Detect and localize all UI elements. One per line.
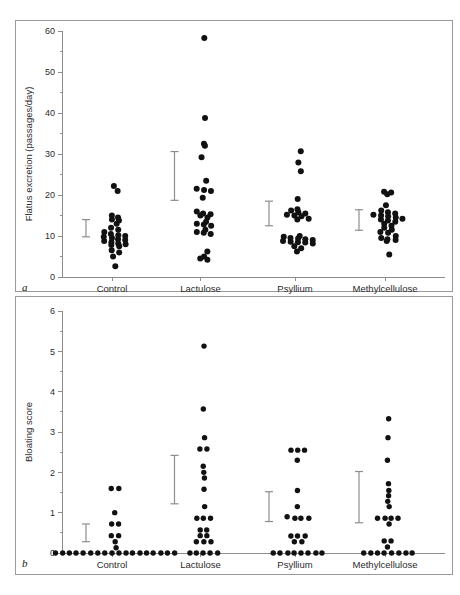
data-point [60,550,65,555]
data-point [201,539,206,544]
data-point [386,416,391,421]
data-point [292,539,297,544]
data-point [295,533,300,538]
data-point [204,446,209,451]
data-point [144,550,149,555]
data-point [388,516,393,521]
data-point [109,521,114,526]
data-point [298,516,303,521]
data-point [102,550,107,555]
data-point [305,550,310,555]
data-point [116,521,121,526]
data-point [187,550,192,555]
figure-container: 0102030405060Flatus excretion (passages/… [0,0,460,595]
data-point [197,533,202,538]
data-point [295,488,300,493]
data-point [194,550,199,555]
data-point [395,516,400,521]
data-point [116,533,121,538]
data-point [285,550,290,555]
data-point [403,550,408,555]
data-point [201,487,206,492]
panel-b-plot: 0123456Bloating scoreControlLactulosePsy… [0,0,460,595]
x-category-label: Psyllium [277,559,312,570]
data-point [313,550,318,555]
data-point [382,538,387,543]
data-point [368,550,373,555]
data-point [306,516,311,521]
data-point [375,550,380,555]
data-point [382,516,387,521]
data-point [385,544,390,549]
data-point [202,475,207,480]
x-category-label: Control [97,559,128,570]
y-tick-label: 6 [50,306,55,316]
data-point [386,504,391,509]
x-category-label: Lactulose [180,559,221,570]
data-point [299,539,304,544]
data-point [53,550,58,555]
data-point [116,550,121,555]
y-tick-label: 4 [50,387,55,397]
data-point [73,550,78,555]
data-point [381,550,386,555]
data-point [208,516,213,521]
data-point [123,550,128,555]
data-point [201,516,206,521]
data-point [288,447,293,452]
data-point [137,550,142,555]
data-point [396,550,401,555]
data-point [409,550,414,555]
data-point [201,406,206,411]
data-point [375,516,380,521]
data-point [197,446,202,451]
data-point [67,550,72,555]
data-point [386,481,391,486]
data-point [165,550,170,555]
data-point [302,533,307,538]
data-point [292,516,297,521]
x-category-label: Methylcellulose [353,559,418,570]
data-point [215,550,220,555]
data-point [109,486,114,491]
data-point [389,550,394,555]
data-point [385,458,390,463]
data-point [319,550,324,555]
data-point [109,550,114,555]
data-point [198,527,203,532]
data-point [386,488,391,493]
data-point [109,533,114,538]
data-point [385,499,390,504]
data-point [150,550,155,555]
data-point [386,493,391,498]
data-point [172,550,177,555]
data-point [277,550,282,555]
data-point [194,516,199,521]
data-point [291,550,296,555]
data-point [80,550,85,555]
data-point [112,510,117,515]
data-point [204,533,209,538]
data-point [201,464,206,469]
data-point [361,550,366,555]
data-point [112,539,117,544]
data-point [200,550,205,555]
y-tick-label: 1 [50,508,55,518]
data-point [386,521,391,526]
y-axis-title: Bloating score [23,402,34,462]
data-point [271,550,276,555]
data-point [130,550,135,555]
data-point [116,486,121,491]
data-point [113,545,118,550]
data-point [295,458,300,463]
data-point [95,550,100,555]
data-point [302,447,307,452]
y-tick-label: 5 [50,347,55,357]
data-point [204,527,209,532]
data-point [288,533,293,538]
data-point [295,447,300,452]
y-tick-label: 2 [50,468,55,478]
data-point [202,435,207,440]
data-point [208,539,213,544]
data-point [194,539,199,544]
